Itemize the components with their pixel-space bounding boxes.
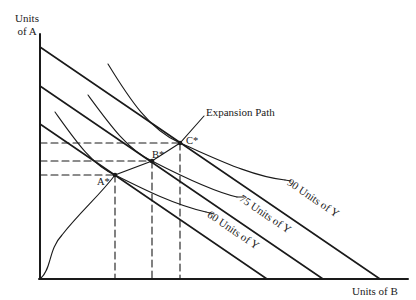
diagram-canvas (0, 0, 416, 300)
isoquant-90 (108, 64, 285, 180)
isoquant-60 (55, 112, 206, 212)
y-axis-label-line2: of A (9, 25, 45, 38)
isocost-line-mid (40, 86, 323, 279)
point-a-marker (113, 173, 118, 178)
point-a-label: A* (97, 175, 110, 188)
expansion-path-label: Expansion Path (206, 106, 275, 119)
isocost-line-high (40, 47, 380, 279)
point-c-label: C* (186, 134, 198, 147)
expansion-path-diagram: Units of A Units of B Expansion Path A* … (0, 0, 416, 300)
point-c-marker (178, 141, 183, 146)
x-axis-label: Units of B (352, 285, 398, 298)
y-axis-label: Units of A (9, 12, 45, 38)
point-b-label: B* (152, 148, 164, 161)
y-axis-label-line1: Units (9, 12, 45, 25)
